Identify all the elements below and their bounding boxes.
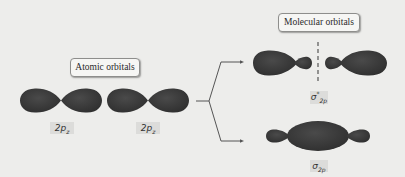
orbital-lobe-icon [341, 50, 387, 75]
branch-connector [196, 62, 241, 141]
orbital-lobe-icon [346, 129, 370, 142]
orbital-subscript: 2p [318, 166, 326, 173]
antibonding-orbital [253, 42, 387, 84]
orbital-lobe-icon [253, 50, 296, 75]
orbital-lobe-icon [325, 57, 343, 70]
atomic-orbital-2 [107, 88, 189, 112]
orbital-symbol: 2p [141, 123, 152, 133]
atomic-orbital-label-1: 2pz [50, 122, 74, 134]
bonding-orbital-label: σ2p [310, 160, 328, 172]
arrow-head-icon [240, 60, 244, 64]
orbital-lobe-icon [61, 88, 102, 112]
orbital-lobe-icon [20, 88, 61, 112]
orbital-lobe-icon [294, 57, 312, 70]
molecular-orbitals-title: Molecular orbitals [278, 13, 360, 32]
atomic-orbital-label-2: 2pz [136, 122, 160, 134]
orbital-symbol: 2p [55, 123, 66, 133]
arrow-head-icon [240, 139, 244, 143]
orbital-subscript: 2p [320, 97, 328, 104]
orbital-lobe-icon [107, 88, 148, 112]
antibonding-orbital-label: σ*2p [310, 91, 328, 104]
atomic-orbital-1 [20, 88, 102, 112]
orbital-lobe-icon [266, 129, 290, 142]
orbital-subscript: z [66, 128, 69, 135]
atomic-orbitals-title: Atomic orbitals [70, 58, 140, 77]
orbital-subscript: z [152, 128, 155, 135]
orbital-lobe-icon [148, 88, 189, 112]
bonding-orbital [266, 121, 370, 151]
orbital-lobe-icon [287, 121, 349, 151]
